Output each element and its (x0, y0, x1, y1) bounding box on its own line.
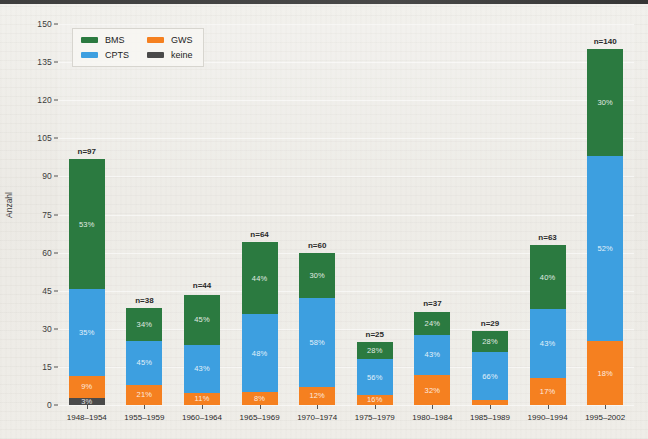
segment-percent-label: 58% (309, 338, 325, 347)
legend-label: keine (171, 50, 193, 60)
bar-segment-gws: 17% (530, 378, 566, 405)
chart-figure: Anzahl 0153045607590105120135150 3%9%35%… (0, 0, 648, 439)
bar-segment-cpts: 43% (530, 309, 566, 378)
segment-percent-label: 28% (367, 346, 383, 355)
y-axis-tick-label: 150 (0, 19, 52, 29)
bar-segment-cpts: 48% (242, 314, 278, 392)
y-axis-tick-label: 135 (0, 57, 52, 67)
bar-segment-gws: 16% (357, 395, 393, 405)
bar-segment-gws: 8% (242, 392, 278, 405)
segment-percent-label: 56% (367, 373, 383, 382)
bar-segment-cpts: 66% (472, 352, 508, 401)
gridline (58, 24, 634, 25)
bar-segment-gws: 11% (184, 393, 220, 405)
legend-label: CPTS (105, 50, 129, 60)
segment-percent-label: 18% (597, 369, 613, 378)
bar-total-label: n=29 (460, 319, 520, 328)
y-axis-tick-label: 90 (0, 171, 52, 181)
bar-total-label: n=44 (172, 281, 232, 290)
segment-percent-label: 66% (482, 372, 498, 381)
segment-percent-label: 43% (540, 339, 556, 348)
bar-segment-bms: 44% (242, 242, 278, 314)
stacked-bar: 66%28%n=29 (472, 331, 508, 405)
stacked-bar: 11%43%45%n=44 (184, 293, 220, 405)
legend-item-keine: keine (147, 50, 193, 60)
legend-label: GWS (171, 35, 193, 45)
segment-percent-label: 30% (597, 98, 613, 107)
bar-total-label: n=38 (114, 296, 174, 305)
x-axis-tick-mark (548, 405, 549, 409)
segment-percent-label: 43% (194, 364, 210, 373)
x-axis-tick-mark (260, 405, 261, 409)
x-axis-tick-mark (490, 405, 491, 409)
legend-item-bms: BMS (81, 35, 129, 45)
segment-percent-label: 48% (252, 349, 268, 358)
stacked-bar: 17%43%40%n=63 (530, 245, 566, 405)
segment-percent-label: 9% (81, 382, 92, 391)
bar-segment-gws: 32% (414, 375, 450, 405)
x-axis-tick-mark (317, 405, 318, 409)
bar-total-label: n=140 (575, 37, 635, 46)
stacked-bar: 3%9%35%53%n=97 (69, 159, 105, 405)
legend-label: BMS (105, 35, 125, 45)
gridline (58, 138, 634, 139)
bar-segment-gws: 18% (587, 341, 623, 405)
bar-segment-cpts: 45% (126, 341, 162, 384)
bar-total-label: n=60 (287, 241, 347, 250)
segment-percent-label: 53% (79, 220, 95, 229)
segment-percent-label: 17% (540, 387, 556, 396)
segment-percent-label: 24% (425, 319, 441, 328)
stacked-bar: 12%58%30%n=60 (299, 253, 335, 405)
bar-segment-cpts: 58% (299, 298, 335, 386)
bar-segment-cpts: 43% (184, 345, 220, 393)
bar-segment-gws: 12% (299, 387, 335, 405)
segment-percent-label: 3% (81, 398, 92, 405)
y-axis-tick-label: 120 (0, 95, 52, 105)
legend-item-gws: GWS (147, 35, 193, 45)
y-axis-tick-label: 60 (0, 248, 52, 258)
bar-segment-bms: 53% (69, 159, 105, 290)
stacked-bar: 8%48%44%n=64 (242, 242, 278, 405)
segment-percent-label: 40% (540, 273, 556, 282)
segment-percent-label: 34% (137, 320, 153, 329)
segment-percent-label: 32% (425, 386, 441, 395)
legend-swatch-icon (147, 37, 164, 43)
segment-percent-label: 44% (252, 274, 268, 283)
bar-segment-bms: 28% (357, 342, 393, 360)
bar-segment-bms: 30% (299, 253, 335, 299)
segment-percent-label: 11% (194, 394, 209, 403)
bar-total-label: n=97 (57, 147, 117, 156)
x-axis-tick-mark (432, 405, 433, 409)
segment-percent-label: 30% (309, 271, 325, 280)
y-axis-tick-label: 105 (0, 133, 52, 143)
x-axis-tick-mark (375, 405, 376, 409)
bar-segment-gws: 9% (69, 376, 105, 398)
x-axis-tick-mark (144, 405, 145, 409)
segment-percent-label: 35% (79, 328, 95, 337)
bar-segment-bms: 34% (126, 308, 162, 341)
x-axis-tick-mark (202, 405, 203, 409)
bar-segment-bms: 24% (414, 312, 450, 335)
x-axis-tick-label: 1995–2002 (560, 413, 648, 422)
bar-segment-bms: 40% (530, 245, 566, 309)
segment-percent-label: 45% (194, 315, 210, 324)
x-axis-tick-mark (87, 405, 88, 409)
y-axis-tick-label: 45 (0, 286, 52, 296)
bar-segment-cpts: 56% (357, 359, 393, 395)
gridline (58, 100, 634, 101)
y-axis-tick-label: 15 (0, 362, 52, 372)
bar-segment-cpts: 52% (587, 156, 623, 341)
bar-segment-bms: 30% (587, 49, 623, 156)
bar-total-label: n=63 (518, 233, 578, 242)
stacked-bar: 32%43%24%n=37 (414, 311, 450, 405)
legend-swatch-icon (81, 37, 98, 43)
legend-swatch-icon (147, 52, 164, 58)
plot-area: 3%9%35%53%n=9721%45%34%n=3811%43%45%n=44… (58, 24, 634, 405)
legend-swatch-icon (81, 52, 98, 58)
bar-segment-bms: 28% (472, 331, 508, 352)
segment-percent-label: 12% (309, 391, 325, 400)
x-axis-tick-mark (605, 405, 606, 409)
chart-legend: BMSGWSCPTSkeine (72, 28, 204, 67)
segment-percent-label: 43% (425, 350, 441, 359)
bar-segment-cpts: 43% (414, 335, 450, 375)
